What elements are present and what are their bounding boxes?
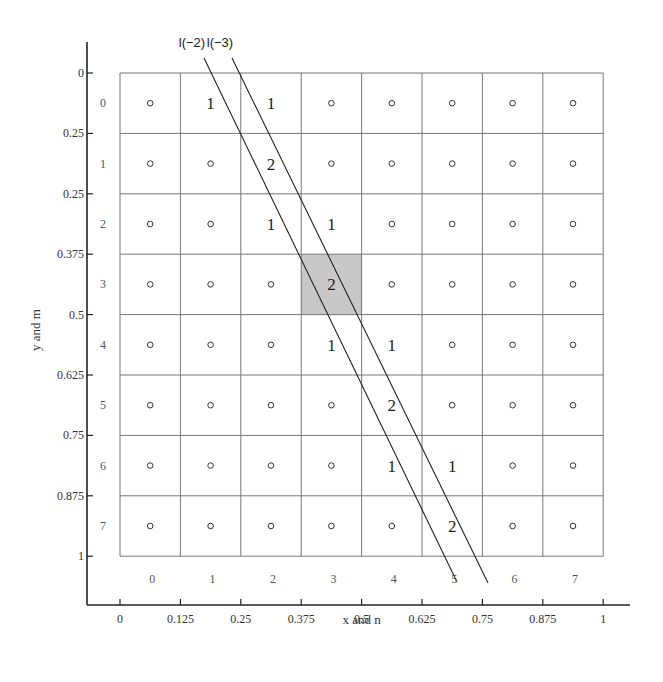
empty-pixel-marker [208,523,214,529]
y-tick-label: 0.875 [57,489,84,503]
empty-pixel-marker [329,100,335,106]
pixel-grid [120,73,603,556]
y-tick-label: 0.375 [57,247,84,261]
empty-pixel-marker [389,100,395,106]
empty-pixel-marker [208,161,214,167]
pixel-count-label: 2 [448,517,457,536]
empty-pixel-marker [570,342,576,348]
empty-pixel-marker [510,463,516,469]
pixel-count-label: 2 [267,155,276,174]
column-index-label: 7 [572,572,578,586]
row-index-label: 7 [100,519,106,533]
sampling-line [204,58,457,582]
row-index-label: 4 [100,338,106,352]
column-index-label: 5 [451,572,457,586]
column-index-label: 0 [149,572,155,586]
column-index-label: 3 [330,572,336,586]
column-index-label: 4 [391,572,397,586]
y-tick-label: 0.75 [63,428,84,442]
pixel-count-label: 2 [388,396,397,415]
row-index-label: 5 [100,398,106,412]
y-tick-label: 0.5 [69,308,84,322]
x-tick-label: 0 [117,612,123,626]
row-index-label: 0 [100,96,106,110]
x-tick-label: 0.75 [472,612,493,626]
empty-pixel-marker [570,402,576,408]
y-tick-label: 0.25 [63,126,84,140]
pixel-count-label: 1 [206,94,215,113]
column-index-label: 1 [210,572,216,586]
empty-pixel-marker [570,282,576,288]
empty-pixel-marker [510,161,516,167]
empty-pixel-marker [268,523,274,529]
x-tick-label: 0.25 [230,612,251,626]
empty-pixel-marker [510,342,516,348]
pixel-count-label: 1 [267,94,276,113]
empty-pixel-marker [208,342,214,348]
y-tick-label: 0.25 [63,187,84,201]
empty-pixel-marker [268,282,274,288]
empty-pixel-marker [449,282,455,288]
pixel-count-label: 1 [267,215,276,234]
empty-pixel-marker [147,221,153,227]
empty-pixel-marker [147,282,153,288]
empty-pixel-marker [449,402,455,408]
empty-pixel-marker [268,463,274,469]
x-tick-label: 0.625 [409,612,436,626]
empty-pixel-marker [208,282,214,288]
x-tick-label: 0.125 [167,612,194,626]
empty-pixel-marker [329,161,335,167]
x-tick-label: 0.375 [288,612,315,626]
empty-pixel-marker [570,221,576,227]
empty-pixel-marker [147,463,153,469]
row-index-label: 3 [100,277,106,291]
empty-pixel-marker [147,342,153,348]
pixel-count-label: 1 [327,215,336,234]
empty-pixel-marker [449,221,455,227]
pixel-grid-diagram: 112112112112 00.250.250.3750.50.6250.750… [0,0,663,682]
empty-pixel-marker [389,523,395,529]
y-tick-label: 0.625 [57,368,84,382]
empty-pixel-marker [570,523,576,529]
row-index-label: 1 [100,157,106,171]
empty-pixel-marker [510,402,516,408]
sampling-line-label: l(−3) [207,35,233,50]
empty-pixel-marker [208,402,214,408]
empty-pixel-marker [147,402,153,408]
y-axis-title: y and m [28,309,43,351]
empty-pixel-marker [147,100,153,106]
axis-labels: 00.250.250.3750.50.6250.750.875100.1250.… [28,35,606,627]
sampling-line [232,58,488,583]
x-tick-label: 0.875 [529,612,556,626]
y-tick-label: 0 [78,66,84,80]
row-index-label: 6 [100,459,106,473]
empty-pixel-marker [389,282,395,288]
empty-pixel-marker [510,282,516,288]
empty-pixel-marker [268,342,274,348]
empty-pixel-marker [208,463,214,469]
pixel-count-label: 1 [448,457,457,476]
empty-pixel-marker [449,342,455,348]
empty-pixel-marker [389,161,395,167]
empty-pixel-marker [389,221,395,227]
empty-pixel-marker [329,402,335,408]
sampling-lines [204,58,488,583]
empty-pixel-marker [329,463,335,469]
empty-pixel-marker [268,402,274,408]
empty-pixel-marker [208,221,214,227]
empty-pixel-marker [570,100,576,106]
y-tick-label: 1 [78,549,84,563]
x-tick-label: 1 [600,612,606,626]
empty-pixel-marker [147,161,153,167]
pixel-count-label: 1 [388,336,397,355]
column-index-label: 2 [270,572,276,586]
column-index-label: 6 [512,572,518,586]
empty-pixel-marker [570,463,576,469]
empty-pixel-marker [449,161,455,167]
empty-pixel-marker [147,523,153,529]
empty-pixel-marker [329,523,335,529]
empty-pixel-marker [510,100,516,106]
pixel-count-label: 1 [388,457,397,476]
empty-pixel-marker [570,161,576,167]
axes [87,42,630,605]
